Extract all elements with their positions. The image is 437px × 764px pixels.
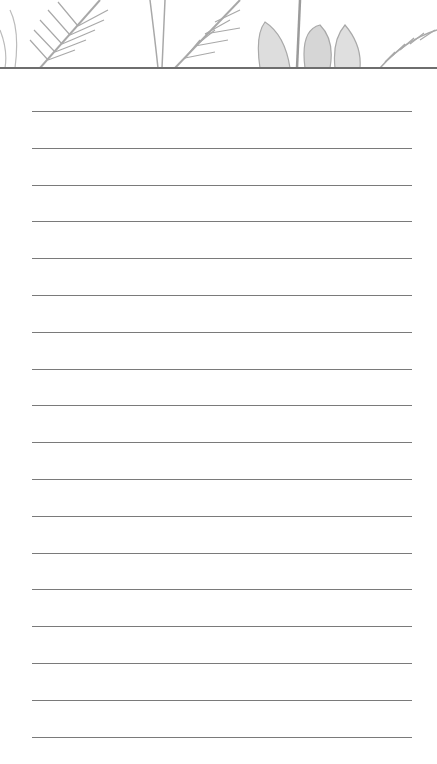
writing-line xyxy=(32,295,412,296)
writing-line xyxy=(32,185,412,186)
writing-line xyxy=(32,258,412,259)
writing-line xyxy=(32,221,412,222)
tropical-leaves-icon xyxy=(0,0,437,68)
writing-line xyxy=(32,663,412,664)
writing-line xyxy=(32,369,412,370)
writing-line xyxy=(32,479,412,480)
writing-line xyxy=(32,148,412,149)
writing-line xyxy=(32,405,412,406)
leaf-header xyxy=(0,0,437,68)
writing-line xyxy=(32,111,412,112)
writing-line xyxy=(32,626,412,627)
writing-line xyxy=(32,737,412,738)
writing-line xyxy=(32,332,412,333)
writing-line xyxy=(32,553,412,554)
writing-line xyxy=(32,516,412,517)
writing-line xyxy=(32,700,412,701)
writing-line xyxy=(32,589,412,590)
writing-line xyxy=(32,442,412,443)
header-rule xyxy=(0,67,437,69)
